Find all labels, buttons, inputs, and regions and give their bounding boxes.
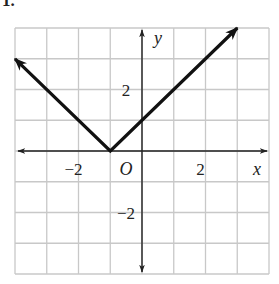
y-axis-label: y — [152, 28, 162, 48]
x-tick-label: −2 — [64, 160, 82, 179]
axes — [18, 30, 267, 272]
y-tick-label: 2 — [122, 81, 131, 100]
axis-labels: −222−2Oxy — [64, 28, 261, 223]
coordinate-plane: −222−2Oxy — [0, 0, 279, 284]
x-tick-label: 2 — [196, 160, 205, 179]
x-axis-label: x — [252, 159, 261, 179]
y-tick-label: −2 — [117, 204, 135, 223]
origin-label: O — [120, 159, 133, 179]
